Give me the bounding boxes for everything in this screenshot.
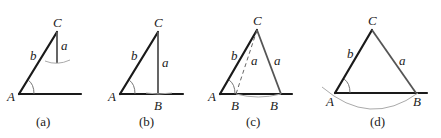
- vertex-a-label: A: [207, 89, 216, 104]
- caption: (c): [246, 114, 260, 129]
- side-b: [335, 30, 372, 93]
- angle-a-arc: [28, 80, 34, 94]
- side-b: [120, 32, 158, 94]
- panel-d: C a b A B (d): [322, 13, 427, 129]
- side-a-short-label: a: [251, 53, 258, 68]
- angle-a-arc: [344, 79, 350, 93]
- side-b-label: b: [347, 46, 354, 61]
- vertex-b1-label: B: [231, 98, 239, 113]
- vertex-b2-label: B: [270, 98, 278, 113]
- caption: (d): [370, 114, 385, 129]
- angle-a-arc: [129, 80, 135, 94]
- side-a-long-label: a: [274, 53, 281, 68]
- caption: (b): [139, 114, 154, 129]
- vertex-a-label: A: [325, 94, 334, 109]
- vertex-b-label: B: [154, 98, 162, 113]
- vertex-c-label: C: [253, 13, 262, 28]
- side-a-label: a: [399, 53, 406, 68]
- side-b-label: b: [30, 48, 37, 63]
- panel-c: C a a b A B B (c): [207, 13, 292, 129]
- panel-a: C a b A (a): [6, 15, 81, 129]
- side-a-label: a: [61, 38, 68, 53]
- ssa-ambiguous-case-diagram: C a b A (a) C a b A B (b) C a a b A B B …: [0, 0, 441, 138]
- side-b-label: b: [131, 48, 138, 63]
- panel-b: C a b A B (b): [107, 15, 183, 129]
- side-a: [372, 30, 416, 93]
- caption: (a): [36, 114, 50, 129]
- vertex-a-label: A: [6, 89, 15, 104]
- angle-a-arc: [229, 80, 235, 94]
- vertex-c-label: C: [368, 13, 377, 28]
- vertex-c-label: C: [154, 15, 163, 30]
- vertex-a-label: A: [107, 89, 116, 104]
- vertex-c-label: C: [53, 15, 62, 30]
- vertex-b-label: B: [413, 94, 421, 109]
- side-b-label: b: [231, 48, 238, 63]
- side-a-label: a: [162, 55, 169, 70]
